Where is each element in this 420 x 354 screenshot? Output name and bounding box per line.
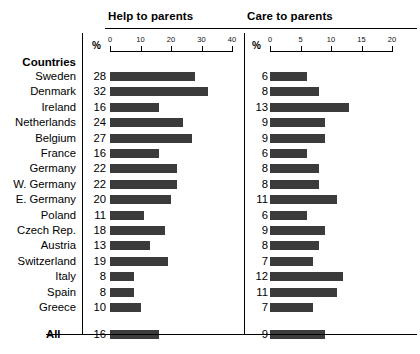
value-care: 12 [246,269,268,284]
bar-care [270,72,307,81]
axis-help: % 010203040 [110,39,232,57]
value-help: 28 [84,69,106,84]
country-label: W. Germany [0,177,76,192]
value-help: 22 [84,161,106,176]
bar-help [110,103,159,112]
value-help: 16 [84,100,106,115]
bar-help [110,180,177,189]
value-care: 6 [246,69,268,84]
chart-row: Sweden286 [0,69,420,84]
chart-row: Poland116 [0,208,420,223]
value-help: 22 [84,177,106,192]
country-label: Spain [0,285,76,300]
value-care: 9 [246,115,268,130]
value-help: 8 [84,269,106,284]
value-help: 16 [84,146,106,161]
value-care: 6 [246,208,268,223]
axis-tick-label-help-10: 10 [136,35,144,44]
chart-row: W. Germany228 [0,177,420,192]
axis-care: % 05101520 [270,39,392,57]
country-label: France [0,146,76,161]
value-care: 8 [246,238,268,253]
value-help: 24 [84,115,106,130]
panel-title-help: Help to parents [108,10,193,22]
value-help: 11 [84,208,106,223]
axis-tick-label-help-0: 0 [108,35,112,44]
bar-help [110,257,168,266]
axis-tick-label-help-30: 30 [197,35,205,44]
value-care: 13 [246,100,268,115]
chart-row: Denmark328 [0,84,420,99]
bar-care [270,303,313,312]
axis-tick-help-20 [171,46,172,52]
country-label: Belgium [0,131,76,146]
value-help: 19 [84,254,106,269]
value-care: 8 [246,161,268,176]
chart-row: Austria138 [0,238,420,253]
value-help: 8 [84,285,106,300]
bar-care [270,272,343,281]
country-label: Italy [0,269,76,284]
value-help: 32 [84,84,106,99]
value-care: 7 [246,300,268,315]
value-care: 6 [246,146,268,161]
bar-help [110,72,195,81]
bar-help [110,118,183,127]
chart-row: Italy812 [0,269,420,284]
panel-title-care: Care to parents [247,10,333,22]
country-label: Poland [0,208,76,223]
axis-tick-label-help-20: 20 [167,35,175,44]
value-care: 9 [246,223,268,238]
country-label: Denmark [0,84,76,99]
country-label: Sweden [0,69,76,84]
country-label: Netherlands [0,115,76,130]
countries-heading: Countries [0,55,76,69]
bar-help [110,226,165,235]
bar-care [270,149,307,158]
axis-tick-label-care-20: 20 [388,35,396,44]
bar-help [110,303,141,312]
value-care: 9 [246,131,268,146]
axis-tick-care-20 [392,46,393,52]
value-help: 10 [84,300,106,315]
axis-tick-care-5 [301,46,302,52]
bar-care [270,164,319,173]
bar-help [110,195,171,204]
value-help: 16 [84,327,106,342]
value-help: 20 [84,192,106,207]
axis-tick-label-help-40: 40 [228,35,236,44]
bar-help [110,87,208,96]
axis-unit-care: % [252,40,261,51]
summary-row: All169 [0,327,420,342]
bar-care [270,241,319,250]
axis-tick-label-care-10: 10 [327,35,335,44]
bar-help [110,288,134,297]
chart-row: France166 [0,146,420,161]
axis-tick-label-care-5: 5 [298,35,302,44]
bar-help [110,272,134,281]
value-care: 8 [246,177,268,192]
bar-help [110,211,144,220]
country-label: Austria [0,238,76,253]
bar-help [110,164,177,173]
value-care: 7 [246,254,268,269]
value-help: 13 [84,238,106,253]
bar-care [270,211,307,220]
value-help: 27 [84,131,106,146]
value-care: 8 [246,84,268,99]
axis-tick-help-30 [202,46,203,52]
bar-care [270,226,325,235]
bar-help [110,149,159,158]
chart-root: Help to parents Care to parents % 010203… [0,0,420,354]
bar-care [270,87,319,96]
bar-care [270,195,337,204]
country-label: Switzerland [0,254,76,269]
country-label: E. Germany [0,192,76,207]
country-label: Ireland [0,100,76,115]
bar-care [270,257,313,266]
axis-unit-help: % [92,40,101,51]
chart-row: Belgium279 [0,131,420,146]
chart-row: Germany228 [0,161,420,176]
axis-tick-help-0 [110,46,111,52]
value-help: 18 [84,223,106,238]
